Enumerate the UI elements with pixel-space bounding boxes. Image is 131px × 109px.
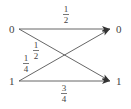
numerator: 1 [64,5,69,13]
numerator: 1 [24,54,29,62]
probability-1-to-0: 1 4 [23,54,29,73]
output-node-1: 1 [116,76,122,87]
input-node-1: 1 [9,76,15,87]
probability-0-to-0: 1 2 [63,5,69,24]
probability-0-to-1: 1 2 [33,41,39,60]
denominator: 2 [64,16,69,24]
denominator: 4 [62,95,67,103]
probability-1-to-1: 3 4 [61,84,67,103]
input-node-0: 0 [9,24,15,35]
numerator: 3 [62,84,67,92]
numerator: 1 [34,41,39,49]
denominator: 2 [34,52,39,60]
output-node-0: 0 [116,24,122,35]
denominator: 4 [24,65,29,73]
